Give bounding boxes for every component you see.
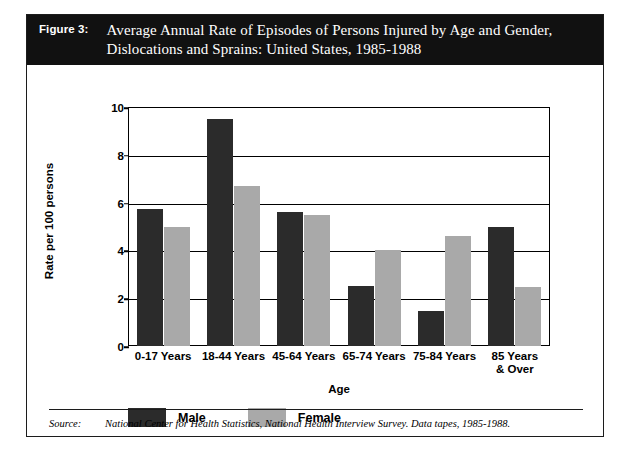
- x-tick-label-line: & Over: [480, 363, 550, 376]
- x-tick-label-line: 45-64 Years: [272, 350, 335, 362]
- bar-female: [375, 250, 401, 346]
- y-tick-label: 10: [111, 102, 129, 114]
- bar-female: [304, 215, 330, 346]
- bar-group: [198, 107, 268, 346]
- x-tick-label: 75-84 Years: [409, 350, 479, 363]
- bar-male: [207, 119, 233, 346]
- x-tick-label-line: 75-84 Years: [413, 350, 476, 362]
- bar-female: [515, 287, 541, 346]
- x-tick-label: 85 Years& Over: [480, 350, 550, 376]
- figure-title-line-1: Average Annual Rate of Episodes of Perso…: [106, 22, 552, 38]
- chart-bars-layer: [128, 107, 550, 346]
- source-note: Source: National Center for Health Stati…: [49, 418, 589, 429]
- bar-group: [269, 107, 339, 346]
- bar-group: [409, 107, 479, 346]
- figure-title-line-2: Dislocations and Sprains: United States,…: [106, 40, 552, 59]
- x-tick-label-line: 65-74 Years: [343, 350, 406, 362]
- bar-group: [480, 107, 550, 346]
- figure-number-label: Figure 3:: [39, 21, 88, 35]
- bar-group: [128, 107, 198, 346]
- figure-title: Average Annual Rate of Episodes of Perso…: [106, 21, 552, 59]
- chart-plot-area: Rate per 100 persons 0246810 0-17 Years1…: [27, 65, 603, 438]
- figure-frame: Figure 3: Average Annual Rate of Episode…: [26, 14, 604, 437]
- x-axis-title: Age: [128, 383, 550, 395]
- bar-female: [445, 236, 471, 346]
- x-tick-label: 0-17 Years: [128, 350, 198, 363]
- x-tick-label: 65-74 Years: [339, 350, 409, 363]
- bar-female: [164, 227, 190, 347]
- bar-male: [348, 286, 374, 346]
- y-axis-title: Rate per 100 persons: [43, 141, 55, 301]
- figure-title-bar: Figure 3: Average Annual Rate of Episode…: [27, 15, 603, 65]
- bar-group: [339, 107, 409, 346]
- bar-male: [488, 227, 514, 347]
- source-divider: [49, 409, 583, 410]
- x-axis-tick-labels: 0-17 Years18-44 Years45-64 Years65-74 Ye…: [128, 350, 550, 384]
- x-tick-label-line: 0-17 Years: [135, 350, 192, 362]
- x-tick-label-line: 85 Years: [492, 350, 538, 362]
- source-label: Source:: [49, 418, 105, 429]
- x-tick-label-line: 18-44 Years: [202, 350, 265, 362]
- bar-male: [137, 209, 163, 346]
- x-tick-label: 18-44 Years: [198, 350, 268, 363]
- bar-male: [277, 212, 303, 346]
- source-text: National Center for Health Statistics, N…: [105, 418, 589, 429]
- x-tick-label: 45-64 Years: [269, 350, 339, 363]
- bar-female: [234, 186, 260, 346]
- bar-male: [418, 311, 444, 346]
